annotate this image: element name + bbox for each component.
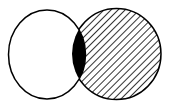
venn-diagram [0, 0, 174, 108]
